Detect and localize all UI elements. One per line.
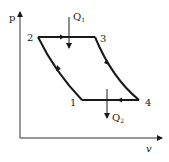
point-label-1: 1 bbox=[70, 97, 76, 108]
point-labels: 2 3 4 1 bbox=[27, 32, 151, 108]
arrow-4-1-icon bbox=[117, 98, 122, 103]
q1-label: Q1 bbox=[73, 11, 85, 23]
q2-label: Q2 bbox=[112, 112, 124, 124]
y-axis-label: p bbox=[9, 12, 15, 23]
x-axis-label: v bbox=[146, 143, 152, 154]
point-label-3: 3 bbox=[100, 33, 106, 44]
point-label-2: 2 bbox=[27, 32, 33, 43]
pv-diagram: p v Q1 Q2 2 3 4 1 bbox=[0, 0, 169, 162]
heat-in: Q1 bbox=[69, 11, 85, 48]
arrow-2-3-icon bbox=[60, 35, 65, 40]
point-label-4: 4 bbox=[145, 97, 151, 108]
cycle-path bbox=[38, 37, 139, 100]
heat-out: Q2 bbox=[107, 89, 124, 124]
process-3-4 bbox=[95, 37, 139, 100]
